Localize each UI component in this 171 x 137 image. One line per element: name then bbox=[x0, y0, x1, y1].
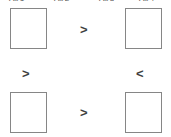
header-label-1: Alt 1 bbox=[9, 0, 24, 4]
operator-top: > bbox=[80, 23, 88, 36]
comparison-diagram: Alt 1 Alt 2 Alt 3 Alt 4 > > < > bbox=[0, 0, 171, 137]
node-box-top-left[interactable] bbox=[10, 8, 47, 49]
header-label-2: Alt 2 bbox=[54, 0, 69, 4]
node-box-bottom-right[interactable] bbox=[125, 92, 162, 133]
operator-bottom: > bbox=[80, 106, 88, 119]
operator-right: < bbox=[136, 67, 144, 80]
header-label-row: Alt 1 Alt 2 Alt 3 Alt 4 bbox=[0, 0, 171, 5]
operator-left: > bbox=[22, 67, 30, 80]
node-box-top-right[interactable] bbox=[125, 8, 162, 49]
header-label-3: Alt 3 bbox=[99, 0, 114, 4]
header-label-4: Alt 4 bbox=[139, 0, 154, 4]
node-box-bottom-left[interactable] bbox=[10, 92, 47, 133]
